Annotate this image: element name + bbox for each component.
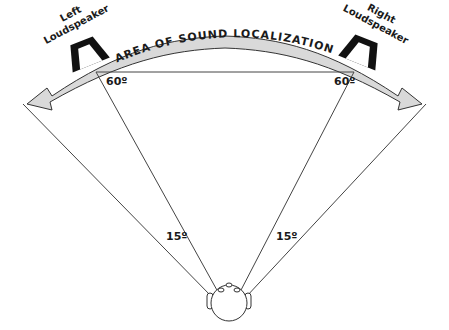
- stereo-localization-diagram: AREA OF SOUND LOCALIZATION Left Loudspea…: [0, 0, 449, 330]
- right-extension-line: [246, 104, 426, 297]
- triangle-lines: [23, 72, 426, 297]
- listener-head-icon: [207, 283, 251, 321]
- right-15-degree-label: 15º: [276, 230, 298, 243]
- right-loudspeaker-icon: [338, 31, 385, 70]
- left-extension-line: [23, 104, 212, 297]
- left-60-degree-label: 60º: [106, 75, 128, 88]
- left-15-degree-label: 15º: [166, 230, 188, 243]
- left-speaker-label: Left Loudspeaker: [36, 0, 111, 46]
- left-speaker-line: [96, 72, 218, 292]
- right-60-degree-label: 60º: [334, 75, 356, 88]
- right-speaker-line: [240, 72, 354, 292]
